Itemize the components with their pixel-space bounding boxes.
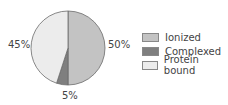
legend: Ionized Complexed Protein bound (142, 30, 228, 72)
legend-label: Protein bound (164, 54, 228, 76)
legend-swatch (142, 33, 159, 42)
label-complexed: 5% (62, 90, 78, 101)
legend-item-ionized: Ionized (142, 30, 228, 44)
label-protein-bound: 45% (8, 39, 30, 50)
legend-swatch (142, 61, 158, 70)
legend-label: Ionized (165, 32, 201, 43)
label-ionized: 50% (108, 39, 130, 50)
legend-swatch (142, 47, 159, 56)
legend-item-protein-bound: Protein bound (142, 58, 228, 72)
pie-slice-ionized (68, 11, 105, 85)
